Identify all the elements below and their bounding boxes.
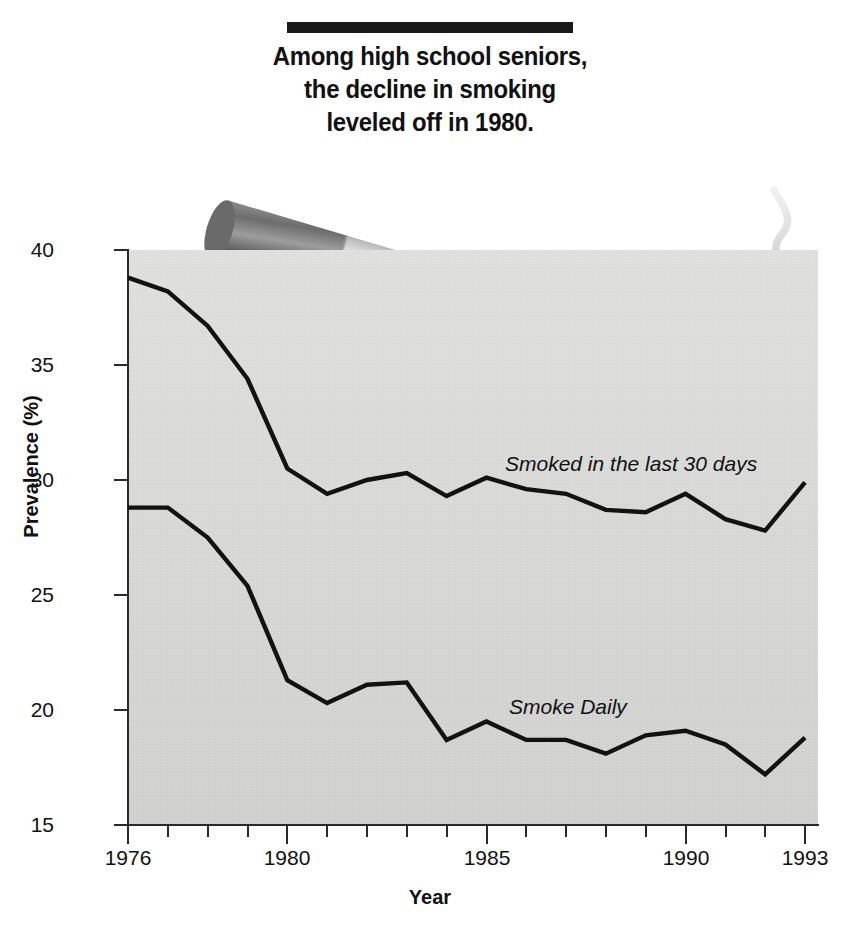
y-axis-line	[127, 249, 129, 826]
x-tick-1987	[565, 826, 567, 837]
title-rule	[287, 22, 573, 33]
x-tick-label-1985: 1985	[447, 846, 527, 870]
x-tick-1979	[247, 826, 249, 837]
x-tick-1993	[804, 826, 806, 844]
x-tick-1976	[127, 826, 129, 844]
x-tick-1978	[207, 826, 209, 837]
x-tick-1989	[645, 826, 647, 837]
x-tick-1986	[525, 826, 527, 837]
x-tick-1983	[406, 826, 408, 837]
x-axis-line	[127, 824, 819, 826]
plot-background-texture	[128, 250, 818, 825]
x-tick-1981	[326, 826, 328, 837]
y-tick-30	[114, 479, 127, 481]
title-line-2: the decline in smoking	[34, 73, 825, 106]
title-line-1: Among high school seniors,	[34, 40, 825, 73]
y-tick-label-40: 40	[0, 238, 54, 262]
x-tick-1980	[286, 826, 288, 844]
series-label-smoke-daily: Smoke Daily	[509, 695, 627, 719]
plot-area	[128, 250, 818, 825]
x-axis-title: Year	[0, 886, 860, 909]
y-tick-20	[114, 709, 127, 711]
y-tick-35	[114, 364, 127, 366]
x-tick-label-1990: 1990	[646, 846, 726, 870]
x-tick-1985	[486, 826, 488, 844]
x-tick-label-1980: 1980	[247, 846, 327, 870]
x-tick-1991	[725, 826, 727, 837]
y-tick-25	[114, 594, 127, 596]
title-block: Among high school seniors, the decline i…	[0, 22, 860, 139]
x-tick-1984	[446, 826, 448, 837]
x-tick-1988	[605, 826, 607, 837]
y-tick-40	[114, 249, 127, 251]
y-tick-15	[114, 824, 127, 826]
x-tick-1992	[764, 826, 766, 837]
x-tick-label-1976: 1976	[88, 846, 168, 870]
series-label-smoked-30-days: Smoked in the last 30 days	[505, 452, 757, 476]
x-tick-label-1993: 1993	[765, 846, 845, 870]
x-tick-1990	[685, 826, 687, 844]
title-line-3: leveled off in 1980.	[34, 106, 825, 139]
x-tick-1982	[366, 826, 368, 837]
y-tick-label-25: 25	[0, 583, 54, 607]
y-tick-label-20: 20	[0, 698, 54, 722]
y-tick-label-15: 15	[0, 813, 54, 837]
x-tick-1977	[167, 826, 169, 837]
y-axis-title: Prevalence (%)	[20, 357, 43, 577]
